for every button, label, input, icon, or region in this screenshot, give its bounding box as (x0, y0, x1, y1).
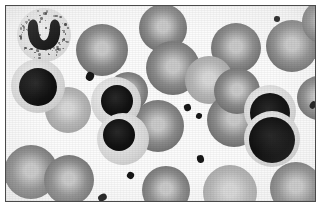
lymphocyte-nucleus (101, 85, 133, 117)
platelet (96, 192, 107, 201)
lymphocyte (244, 111, 300, 167)
micrograph-figure (0, 0, 321, 207)
platelet (182, 102, 191, 111)
platelet (274, 16, 280, 22)
blood-smear-field (6, 6, 315, 201)
erythrocyte (76, 24, 128, 76)
lymphocyte (97, 113, 149, 165)
platelet (196, 154, 205, 164)
erythrocyte (270, 162, 315, 201)
neutrophil-nucleus-u-shaped (17, 8, 71, 62)
lymphocyte-nucleus (19, 68, 57, 106)
lymphocyte-nucleus (103, 119, 135, 151)
band-neutrophil (17, 8, 71, 62)
lymphocyte (11, 59, 65, 113)
erythrocyte (142, 166, 190, 201)
platelet (196, 113, 203, 120)
erythrocyte (203, 165, 257, 201)
lymphocyte-nucleus (249, 117, 295, 163)
erythrocyte (44, 155, 94, 201)
micrograph-frame (5, 5, 316, 202)
platelet (125, 170, 134, 179)
erythrocyte (297, 76, 315, 120)
